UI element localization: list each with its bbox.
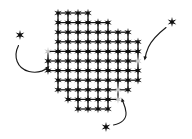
- figure-root: [0, 0, 192, 139]
- lattice-diagram-svg: [0, 0, 192, 139]
